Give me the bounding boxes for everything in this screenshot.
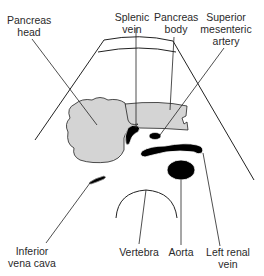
vertebra-shape xyxy=(116,190,177,218)
aorta-shape xyxy=(167,160,195,180)
label-left-renal-vein: Left renal vein xyxy=(200,246,256,270)
sma-shape xyxy=(149,133,161,140)
label-pancreas-head: Pancreas head xyxy=(7,14,51,38)
label-splenic-vein: Splenic vein xyxy=(112,11,152,35)
ivc-shape xyxy=(89,176,105,184)
label-pancreas-body: Pancreas body xyxy=(154,11,198,35)
label-ivc: Inferior vena cava xyxy=(6,245,58,269)
label-sma: Superior mesenteric artery xyxy=(198,11,254,47)
label-vertebra: Vertebra xyxy=(116,246,162,258)
label-aorta: Aorta xyxy=(164,246,198,258)
left-renal-vein-shape xyxy=(141,144,203,157)
